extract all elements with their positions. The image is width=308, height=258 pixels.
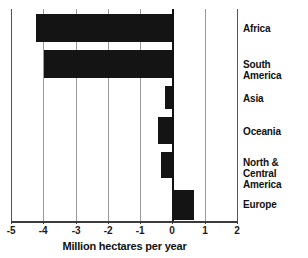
- x-tick-label-1: 1: [202, 225, 207, 236]
- x-tick-0: [172, 221, 173, 224]
- category-label-south-america: South America: [243, 59, 308, 81]
- bar-north-central-america: [161, 152, 172, 178]
- x-tick-1: [205, 221, 206, 224]
- bar-row: [11, 190, 237, 220]
- bar-row: [11, 117, 237, 144]
- x-tick-label--2: -2: [104, 225, 113, 236]
- x-tick-label--5: -5: [7, 225, 16, 236]
- bar-row: [11, 14, 237, 42]
- bar-row: [11, 86, 237, 109]
- category-label-africa: Africa: [243, 23, 308, 34]
- x-tick-label-2: 2: [234, 225, 239, 236]
- x-tick--4: [43, 221, 44, 224]
- x-axis-line: [11, 221, 238, 223]
- x-tick--3: [76, 221, 77, 224]
- category-label-list: Africa South America Asia Oceania North …: [243, 9, 308, 221]
- bar-south-america: [44, 50, 172, 78]
- plot-area: [11, 9, 237, 221]
- bar-row: [11, 50, 237, 78]
- category-label-north-central-america: North & Central America: [243, 157, 308, 190]
- bar-europe: [172, 190, 194, 220]
- x-tick--2: [108, 221, 109, 224]
- category-label-asia: Asia: [243, 93, 308, 104]
- x-tick--5: [11, 221, 12, 224]
- x-tick-2: [237, 221, 238, 224]
- bar-africa: [36, 14, 172, 42]
- x-tick--1: [140, 221, 141, 224]
- x-axis-title: Million hectares per year: [11, 240, 238, 252]
- x-tick-label--1: -1: [136, 225, 145, 236]
- bar-oceania: [158, 117, 172, 144]
- category-label-europe: Europe: [243, 199, 308, 210]
- bar-asia: [165, 86, 172, 109]
- x-tick-label--3: -3: [72, 225, 81, 236]
- category-label-oceania: Oceania: [243, 126, 308, 137]
- x-tick-label-0: 0: [169, 225, 174, 236]
- gridline-2: [237, 9, 238, 221]
- bar-row: [11, 152, 237, 178]
- bar-chart: -5 -4 -3 -2 -1 0 1 2 Million hectares pe…: [0, 0, 308, 258]
- x-tick-label--4: -4: [39, 225, 48, 236]
